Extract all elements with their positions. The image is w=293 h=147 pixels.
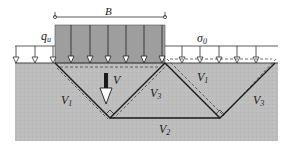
width-label: B xyxy=(105,5,112,17)
ultimate-load-label: qu xyxy=(41,29,51,44)
failure-mechanism-diagram: B qu σ0 xyxy=(0,0,293,147)
surcharge-label: σ0 xyxy=(197,31,207,46)
right-surcharge-arrows xyxy=(165,46,278,63)
soil-mass xyxy=(15,63,278,141)
left-surcharge-arrows xyxy=(13,46,56,63)
